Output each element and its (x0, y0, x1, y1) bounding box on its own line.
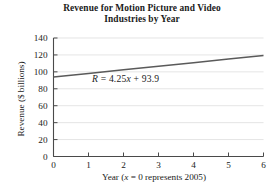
y-tick-label: 60 (38, 101, 48, 111)
equation-coefficient: 4.25 (109, 73, 127, 84)
y-tick-label: 40 (38, 118, 48, 128)
equation-plus: + (131, 73, 142, 84)
y-tick-label: 100 (34, 67, 48, 77)
x-tick-label: 2 (121, 160, 126, 170)
x-tick-label: 4 (191, 160, 196, 170)
x-tick-label: 1 (86, 160, 91, 170)
y-tick-label: 20 (38, 135, 48, 145)
x-tick-label: 0 (51, 160, 56, 170)
y-tick-label: 120 (34, 50, 48, 60)
x-tick-labels: 0123456 (51, 160, 266, 170)
gridlines (54, 38, 264, 140)
y-tick-marks (54, 38, 58, 157)
y-tick-label: 80 (38, 84, 48, 94)
chart-figure: Revenue for Motion Picture and Video Ind… (0, 0, 272, 193)
x-tick-label: 5 (226, 160, 231, 170)
y-tick-label: 140 (34, 33, 48, 43)
plot-area: 020406080100120140 0123456 (0, 0, 272, 193)
y-tick-labels: 020406080100120140 (34, 33, 48, 162)
x-tick-marks (54, 153, 264, 157)
regression-equation-annotation: R = 4.25x + 93.9 (92, 73, 159, 84)
x-tick-label: 3 (156, 160, 161, 170)
equation-equals: = (98, 73, 109, 84)
y-tick-label: 0 (43, 152, 48, 162)
x-tick-label: 6 (261, 160, 266, 170)
equation-constant: 93.9 (142, 73, 160, 84)
